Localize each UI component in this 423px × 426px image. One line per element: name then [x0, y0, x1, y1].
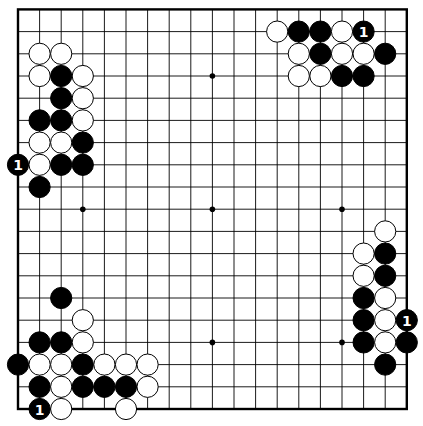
white-stone: [72, 110, 93, 131]
black-stone: 1: [29, 398, 50, 419]
black-stone: [51, 154, 72, 175]
black-stone: [396, 332, 417, 353]
white-stone: [72, 88, 93, 109]
star-point: [80, 206, 86, 212]
white-stone: [288, 43, 309, 64]
black-stone: [29, 376, 50, 397]
white-stone: [288, 65, 309, 86]
move-number-label: 1: [402, 313, 412, 329]
white-stone: [51, 354, 72, 375]
black-stone: [51, 65, 72, 86]
black-stone: [29, 176, 50, 197]
black-stone: [375, 43, 396, 64]
white-stone: [115, 398, 136, 419]
black-stone: [353, 332, 374, 353]
white-stone: [375, 310, 396, 331]
white-stone: [375, 221, 396, 242]
white-stone: [353, 243, 374, 264]
black-stone: 1: [7, 154, 28, 175]
white-stone: [310, 65, 331, 86]
black-stone: [29, 110, 50, 131]
white-stone: [137, 376, 158, 397]
black-stone: [72, 132, 93, 153]
white-stone: [94, 354, 115, 375]
white-stone: [29, 43, 50, 64]
black-stone: [29, 332, 50, 353]
black-stone: [353, 287, 374, 308]
white-stone: [51, 132, 72, 153]
black-stone: [353, 310, 374, 331]
black-stone: [310, 43, 331, 64]
white-stone: [29, 65, 50, 86]
white-stone: [51, 43, 72, 64]
move-number-label: 1: [359, 24, 369, 40]
white-stone: [51, 398, 72, 419]
white-stone: [51, 376, 72, 397]
star-point: [339, 340, 345, 346]
black-stone: [51, 88, 72, 109]
white-stone: [72, 332, 93, 353]
white-stone: [331, 43, 352, 64]
white-stone: [29, 132, 50, 153]
black-stone: [94, 376, 115, 397]
black-stone: [51, 110, 72, 131]
white-stone: [29, 154, 50, 175]
black-stone: [310, 21, 331, 42]
white-stone: [29, 354, 50, 375]
black-stone: [375, 265, 396, 286]
white-stone: [72, 310, 93, 331]
move-number-label: 1: [35, 402, 45, 418]
black-stone: 1: [353, 21, 374, 42]
black-stone: [72, 376, 93, 397]
black-stone: [375, 243, 396, 264]
white-stone: [72, 65, 93, 86]
black-stone: [7, 354, 28, 375]
star-point: [210, 340, 216, 346]
black-stone: [51, 332, 72, 353]
go-board-canvas[interactable]: 1111: [0, 0, 423, 426]
white-stone: [137, 354, 158, 375]
go-board[interactable]: 1111: [0, 0, 423, 426]
black-stone: [115, 376, 136, 397]
move-number-label: 1: [13, 157, 23, 173]
black-stone: [375, 354, 396, 375]
star-point: [210, 73, 216, 79]
star-point: [210, 206, 216, 212]
black-stone: [72, 354, 93, 375]
white-stone: [353, 265, 374, 286]
black-stone: [72, 154, 93, 175]
white-stone: [331, 21, 352, 42]
star-point: [339, 206, 345, 212]
white-stone: [375, 287, 396, 308]
black-stone: [331, 65, 352, 86]
white-stone: [375, 332, 396, 353]
black-stone: [288, 21, 309, 42]
white-stone: [353, 43, 374, 64]
black-stone: [353, 65, 374, 86]
black-stone: [51, 287, 72, 308]
black-stone: 1: [396, 310, 417, 331]
white-stone: [267, 21, 288, 42]
white-stone: [115, 354, 136, 375]
